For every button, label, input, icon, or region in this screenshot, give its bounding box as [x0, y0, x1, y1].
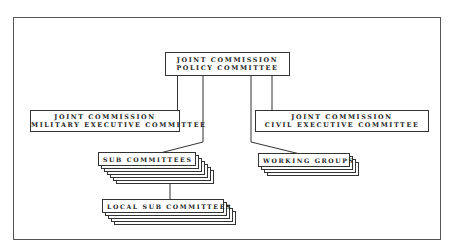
working-groups-label: WORKING GROUPS — [258, 153, 350, 167]
military-executive-committee-box: JOINT COMMISSION MILITARY EXECUTIVE COMM… — [30, 110, 180, 132]
local-sub-committees-label: LOCAL SUB COMMITTEES — [102, 199, 224, 213]
military-line2: MILITARY EXECUTIVE COMMITTEE — [31, 121, 179, 129]
civil-line1: JOINT COMMISSION — [256, 113, 428, 121]
civil-executive-committee-box: JOINT COMMISSION CIVIL EXECUTIVE COMMITT… — [255, 110, 429, 132]
policy-committee-box: JOINT COMMISSION POLICY COMMITTEE — [165, 52, 290, 76]
civil-line2: CIVIL EXECUTIVE COMMITTEE — [256, 121, 428, 129]
policy-line2: POLICY COMMITTEE — [166, 64, 289, 72]
military-line1: JOINT COMMISSION — [31, 113, 179, 121]
sub-committees-label: SUB COMMITTEES — [98, 152, 196, 166]
policy-line1: JOINT COMMISSION — [166, 56, 289, 64]
